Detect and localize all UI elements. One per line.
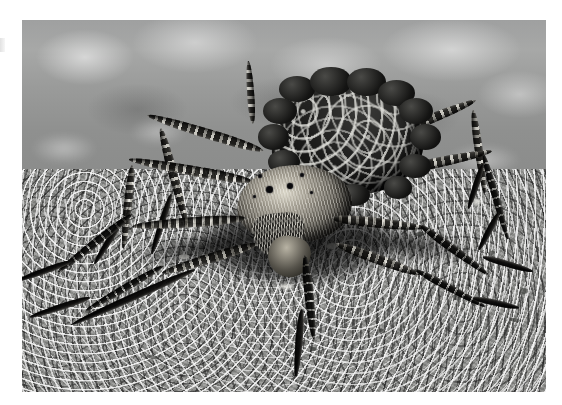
leg-left-2-tibia bbox=[119, 165, 136, 249]
leg-left-3-tarsus bbox=[22, 258, 73, 283]
leg-left-2-femur bbox=[128, 154, 254, 186]
spider-photograph bbox=[22, 20, 546, 392]
eye-anterior-median-right bbox=[287, 183, 293, 189]
image-canvas bbox=[0, 0, 562, 405]
leg-center-front-tarsus bbox=[293, 309, 306, 377]
spiderling-cluster-lump bbox=[399, 154, 430, 178]
spiderling-cluster-lump bbox=[310, 67, 352, 97]
spiderling-cluster-lump bbox=[410, 124, 441, 150]
leg-right-4-tibia bbox=[413, 266, 486, 309]
eye-anterior-median-left bbox=[266, 186, 273, 193]
leg-left-3-femur bbox=[132, 213, 248, 231]
leg-rear-left-femur bbox=[244, 61, 256, 124]
leg-right-3-femur bbox=[331, 213, 426, 233]
leg-right-3-tarsus bbox=[482, 254, 534, 274]
leg-right-4-femur bbox=[335, 240, 422, 280]
leg-left-4-femur bbox=[161, 240, 259, 278]
spider-subject bbox=[22, 20, 546, 392]
spiderling-cluster-lump bbox=[384, 176, 413, 198]
leg-right-2-tibia bbox=[480, 153, 512, 241]
leg-right-2-tarsus bbox=[477, 211, 502, 251]
eye-posterior-right bbox=[300, 173, 304, 177]
eye-lateral-left bbox=[253, 195, 256, 198]
paper-edge-mark bbox=[0, 38, 5, 52]
